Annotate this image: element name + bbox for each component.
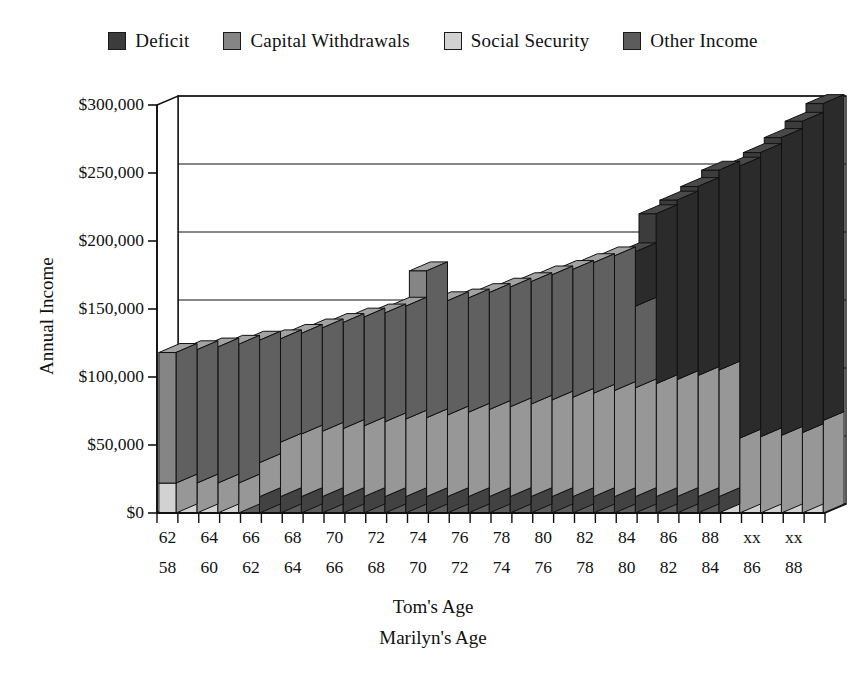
bar-21-social_security-side bbox=[614, 382, 635, 497]
bar-15-social_security-side bbox=[489, 401, 510, 497]
bar-5-capital_withdrawals-side bbox=[280, 330, 301, 442]
bar-8-social_security-side bbox=[343, 420, 364, 497]
bar-15-capital_withdrawals-side bbox=[489, 284, 510, 410]
bar-1-capital_withdrawals-side bbox=[197, 341, 218, 483]
bar-12-capital_withdrawals-side bbox=[426, 262, 447, 418]
bar-23-deficit-side bbox=[656, 205, 677, 384]
x-axis-marilyn-age-label-30: 88 bbox=[774, 557, 814, 578]
bar-6-capital_withdrawals-side bbox=[301, 324, 322, 434]
x-axis-tom-age-label-20: 82 bbox=[565, 527, 605, 548]
chart-page: DeficitCapital WithdrawalsSocial Securit… bbox=[0, 0, 866, 675]
bar-22-social_security-side bbox=[635, 379, 656, 497]
x-axis-tom-age-label-4: 66 bbox=[231, 527, 271, 548]
bar-18-social_security-side bbox=[552, 391, 573, 497]
bar-31-social_security-side bbox=[823, 412, 844, 513]
bar-25-social_security-side bbox=[698, 367, 719, 497]
x-axis-tom-age-label-22: 84 bbox=[607, 527, 647, 548]
bar-9-capital_withdrawals-side bbox=[364, 308, 385, 426]
bar-26-social_security-side bbox=[719, 361, 740, 496]
bar-28-social_security-side bbox=[760, 428, 781, 513]
x-axis-marilyn-age-label-18: 76 bbox=[523, 557, 563, 578]
y-axis-tick-label-50000: $50,000 bbox=[87, 434, 144, 455]
bar-16-capital_withdrawals-side bbox=[510, 278, 531, 407]
bar-0-capital_withdrawals-side bbox=[176, 344, 197, 484]
x-axis-title-marilyns-age: Marilyn's Age bbox=[0, 627, 866, 649]
bar-14-capital_withdrawals-side bbox=[468, 289, 489, 412]
bar-29-social_security-side bbox=[781, 426, 802, 513]
x-axis-marilyn-age-label-12: 70 bbox=[398, 557, 438, 578]
bar-5-social_security-side bbox=[280, 433, 301, 496]
bar-24-deficit-side bbox=[677, 191, 698, 380]
bar-17-social_security-side bbox=[531, 395, 552, 496]
bar-2-capital_withdrawals-side bbox=[218, 338, 239, 483]
chart-plot-area: $0$50,000$100,000$150,000$200,000$250,00… bbox=[0, 0, 866, 675]
x-axis-marilyn-age-label-6: 64 bbox=[273, 557, 313, 578]
x-axis-tom-age-label-2: 64 bbox=[189, 527, 229, 548]
bar-28-deficit-side bbox=[760, 144, 781, 437]
bar-4-capital_withdrawals-side bbox=[259, 331, 280, 462]
x-axis-title-toms-age: Tom's Age bbox=[0, 596, 866, 618]
x-axis-tom-age-label-6: 68 bbox=[273, 527, 313, 548]
x-axis-marilyn-age-label-14: 72 bbox=[440, 557, 480, 578]
bar-10-capital_withdrawals-side bbox=[385, 304, 406, 422]
bar-22-deficit-side bbox=[635, 243, 656, 306]
x-axis-tom-age-label-28: xx bbox=[732, 527, 772, 548]
x-axis-tom-age-label-24: 86 bbox=[648, 527, 688, 548]
y-axis-tick-label-100000: $100,000 bbox=[78, 366, 144, 387]
bar-20-capital_withdrawals-side bbox=[593, 254, 614, 394]
bar-16-social_security-side bbox=[510, 398, 531, 497]
bar-23-social_security-side bbox=[656, 375, 677, 497]
bar-9-social_security-side bbox=[364, 417, 385, 497]
x-axis-tom-age-label-10: 72 bbox=[356, 527, 396, 548]
bar-25-deficit-side bbox=[698, 178, 719, 376]
x-axis-marilyn-age-label-0: 58 bbox=[147, 557, 187, 578]
x-axis-marilyn-age-label-22: 80 bbox=[607, 557, 647, 578]
x-axis-marilyn-age-label-28: 86 bbox=[732, 557, 772, 578]
bar-30-social_security-side bbox=[802, 424, 823, 513]
bar-29-deficit-side bbox=[781, 129, 802, 436]
y-axis-title: Annual Income bbox=[36, 257, 58, 375]
bar-12-social_security-side bbox=[426, 409, 447, 497]
bar-14-social_security-side bbox=[468, 403, 489, 496]
y-axis-tick-label-200000: $200,000 bbox=[78, 230, 144, 251]
x-axis-tom-age-label-14: 76 bbox=[440, 527, 480, 548]
bar-13-social_security-side bbox=[447, 406, 468, 497]
x-axis-tom-age-label-26: 88 bbox=[690, 527, 730, 548]
x-axis-tom-age-label-12: 74 bbox=[398, 527, 438, 548]
x-axis-marilyn-age-label-16: 74 bbox=[481, 557, 521, 578]
bar-20-social_security-side bbox=[593, 384, 614, 496]
bar-27-social_security-side bbox=[740, 429, 761, 513]
bar-18-capital_withdrawals-side bbox=[552, 266, 573, 400]
bar-19-social_security-side bbox=[573, 388, 594, 496]
bar-22-capital_withdrawals-side bbox=[635, 297, 656, 388]
y-axis-tick-label-250000: $250,000 bbox=[78, 162, 144, 183]
y-axis-tick-label-300000: $300,000 bbox=[78, 94, 144, 115]
x-axis-tom-age-label-18: 80 bbox=[523, 527, 563, 548]
bar-26-deficit-side bbox=[719, 161, 740, 370]
bar-27-deficit-side bbox=[740, 157, 761, 438]
x-axis-tom-age-label-8: 70 bbox=[314, 527, 354, 548]
bar-31-deficit-side bbox=[823, 95, 844, 421]
bar-10-social_security-side bbox=[385, 413, 406, 497]
x-axis-marilyn-age-label-8: 66 bbox=[314, 557, 354, 578]
bar-19-capital_withdrawals-side bbox=[573, 261, 594, 398]
bar-3-capital_withdrawals-side bbox=[239, 335, 260, 483]
bar-30-deficit-side bbox=[802, 112, 823, 432]
bar-7-social_security-side bbox=[322, 422, 343, 496]
bar-21-capital_withdrawals-side bbox=[614, 247, 635, 391]
x-axis-marilyn-age-label-4: 62 bbox=[231, 557, 271, 578]
bar-0-social_security-front bbox=[159, 483, 176, 513]
x-axis-marilyn-age-label-10: 68 bbox=[356, 557, 396, 578]
bar-11-capital_withdrawals-side bbox=[406, 297, 427, 419]
bar-11-social_security-side bbox=[406, 410, 427, 497]
x-axis-tom-age-label-30: xx bbox=[774, 527, 814, 548]
bar-17-capital_withdrawals-side bbox=[531, 273, 552, 404]
x-axis-marilyn-age-label-26: 84 bbox=[690, 557, 730, 578]
x-axis-marilyn-age-label-20: 78 bbox=[565, 557, 605, 578]
bar-7-capital_withdrawals-side bbox=[322, 319, 343, 431]
bar-13-capital_withdrawals-side bbox=[447, 292, 468, 415]
x-axis-marilyn-age-label-2: 60 bbox=[189, 557, 229, 578]
bar-group-0[interactable] bbox=[159, 344, 197, 513]
bar-6-social_security-side bbox=[301, 425, 322, 497]
bar-8-capital_withdrawals-side bbox=[343, 314, 364, 429]
